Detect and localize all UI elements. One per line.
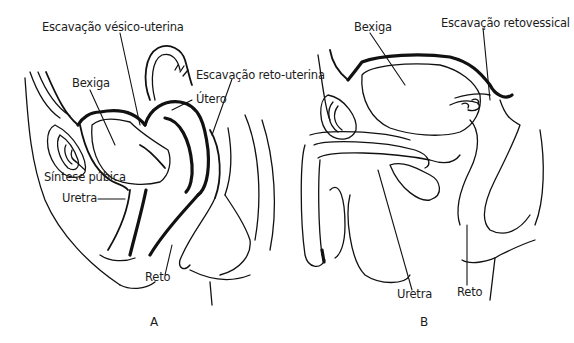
label-reto-b: Reto: [457, 287, 482, 299]
label-reto-a: Reto: [145, 272, 170, 284]
label-sintese-pubica: Síntese púbica: [44, 172, 126, 184]
label-bexiga-a: Bexiga: [72, 78, 110, 90]
label-escavacao-vesico-uterina: Escavação vésico-uterina: [42, 22, 184, 34]
label-escavacao-retovessical: Escavação retovessical: [441, 18, 570, 30]
label-utero: Útero: [196, 94, 227, 106]
label-uretra-a: Uretra: [62, 193, 97, 205]
label-escavacao-reto-uterina: Escavação reto-uterina: [196, 70, 325, 82]
anatomy-figure: Escavação vésico-uterina Bexiga Escavaçã…: [0, 0, 574, 343]
label-uretra-b: Uretra: [397, 289, 432, 301]
label-bexiga-b: Bexiga: [354, 22, 392, 34]
panel-caption-a: A: [150, 316, 158, 328]
panel-caption-b: B: [420, 316, 428, 328]
